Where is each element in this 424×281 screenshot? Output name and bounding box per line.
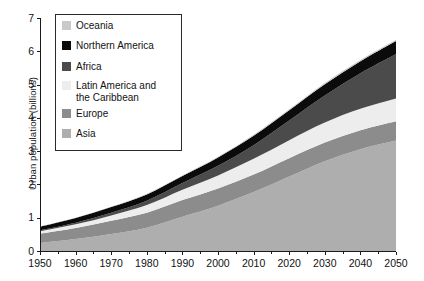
- legend-label: Latin America and the Caribbean: [76, 80, 156, 103]
- legend-swatch-icon: [62, 41, 71, 50]
- legend-label: Oceania: [76, 20, 113, 32]
- legend-label: Asia: [76, 128, 95, 140]
- legend-item-latin-america-and[interactable]: Latin America and the Caribbean: [62, 80, 156, 103]
- legend-item-oceania[interactable]: Oceania: [62, 20, 113, 32]
- legend: OceaniaNorthern AmericaAfricaLatin Ameri…: [55, 14, 182, 151]
- legend-item-africa[interactable]: Africa: [62, 61, 102, 73]
- legend-swatch-icon: [62, 129, 71, 138]
- legend-item-northern-america[interactable]: Northern America: [62, 40, 154, 52]
- legend-label: Africa: [76, 61, 102, 73]
- legend-swatch-icon: [62, 21, 71, 30]
- urban-population-chart: Urban population (billions) 76543210 195…: [0, 0, 424, 281]
- legend-swatch-icon: [62, 81, 71, 90]
- legend-swatch-icon: [62, 62, 71, 71]
- legend-item-asia[interactable]: Asia: [62, 128, 95, 140]
- legend-label: Europe: [76, 108, 108, 120]
- legend-label: Northern America: [76, 40, 154, 52]
- legend-item-europe[interactable]: Europe: [62, 108, 108, 120]
- legend-swatch-icon: [62, 109, 71, 118]
